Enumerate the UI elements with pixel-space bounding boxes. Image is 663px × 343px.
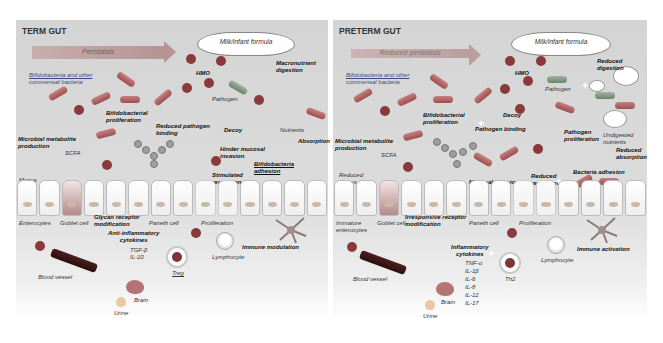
cytokine-item: TNF-α [465, 260, 482, 267]
proliferation-label: Proliferation [201, 220, 233, 227]
immune-modulation-label: Immune modulation [242, 244, 299, 251]
bifido-prolif-label: Bifidobacterialproliferation [423, 112, 465, 126]
peristalsis-label: Peristalsis [32, 48, 164, 55]
pathogen-icon [499, 145, 520, 161]
hmo-icon [500, 84, 510, 94]
brain-label: Brain [441, 299, 455, 306]
bacteria-label-2: commensal bacteria [346, 79, 400, 86]
hmo-icon [523, 76, 533, 86]
hmo-icon [507, 228, 517, 238]
urine-label: Urine [114, 310, 128, 317]
cytokine-item: IL-8 [465, 284, 475, 291]
pathogen-icon [554, 101, 575, 114]
cytokine-item: IL-12 [465, 292, 479, 299]
bacteria-icon [402, 130, 423, 142]
hmo-icon [216, 56, 226, 66]
reduced-digestion-label: Reduceddigestion [597, 58, 624, 72]
pathogen-icon [228, 79, 249, 95]
inflammation-star-icon: ✦ [487, 248, 495, 259]
paneth-label: Paneth cell [469, 220, 499, 227]
bacteria-icon [48, 85, 69, 101]
bacteria-icon [90, 91, 111, 106]
irresponsive-label: Irresponsive receptormodification [405, 214, 466, 228]
hmo-icon [347, 242, 357, 252]
hmo-icon [254, 95, 264, 105]
damage-star-icon: ✦ [581, 80, 589, 91]
bacteria-icon [95, 128, 116, 140]
bacteria-icon [353, 87, 374, 103]
blood-vessel-icon [359, 250, 407, 275]
lymphocyte-label: Lymphocyte [212, 254, 244, 261]
milk-cloud-label: Milk/infant formula [512, 38, 610, 45]
microbial-metabolite-label: Microbial metaboliteproduction [335, 138, 393, 152]
lymphocyte-icon [216, 232, 234, 250]
bacteria-label: Bifidobacteria and other [346, 72, 409, 79]
treg-icon [166, 246, 188, 268]
anti-inflammatory-label: Anti-inflammatorycytokines [108, 230, 159, 244]
macronutrient-label: Macronutrientdigestion [276, 60, 316, 74]
pathogen-label: Pathogen [212, 96, 238, 103]
hmo-icon [35, 241, 45, 251]
cytokine-item: IL-6 [465, 276, 475, 283]
bacteria-icon [305, 107, 326, 120]
cytokine-item: IL-10 [130, 254, 144, 261]
nutrients-label: Nutrients [280, 127, 304, 134]
bifido-prolif-label: Bifidobacterialproliferation [106, 110, 148, 124]
hmo-icon [191, 228, 201, 238]
peristalsis-label: Reduced peristalsis [351, 49, 469, 56]
scfa-label: SCFA [65, 150, 81, 157]
inflammatory-label: Inflammatorycytokines [451, 244, 489, 258]
brain-icon [126, 280, 144, 294]
hmo-icon [186, 54, 196, 64]
pathogen-prolif-label: Pathogenproliferation [564, 129, 599, 143]
th2-label: Th2 [505, 276, 515, 283]
cytokine-item: IL-1β [465, 268, 479, 275]
bacteria-icon [433, 96, 453, 103]
bacteria-icon [120, 96, 140, 103]
enterocytes-label: Enterocytes [19, 220, 51, 227]
damage-star-icon: ✦ [477, 118, 485, 129]
hmo-icon [536, 56, 546, 66]
urine-label: Urine [423, 313, 437, 320]
lymphocyte-icon [547, 236, 565, 254]
bacteria-label-2: commensal bacteria [29, 79, 83, 86]
glycan-label: Glycan receptormodification [94, 214, 140, 228]
dendritic-cell-icon [274, 216, 308, 244]
term-gut-panel: TERM GUT Peristalsis Milk/infant formula… [16, 20, 328, 320]
absorption-label: Absorption [298, 138, 330, 145]
hmo-icon [505, 56, 515, 66]
hmo-icon [102, 160, 112, 170]
decoy-label: Decoy [224, 127, 242, 134]
undigested-cloud-icon [589, 80, 605, 92]
milk-cloud: Milk/infant formula [511, 32, 611, 56]
immune-activation-label: Immune activation [577, 246, 630, 253]
reduced-absorption-label: Reducedabsorption [616, 147, 647, 161]
lymphocyte-label: Lymphocyte [541, 257, 573, 264]
milk-cloud: Milk/infant formula [197, 32, 295, 56]
paneth-label: Paneth cell [149, 220, 179, 227]
pathogen-icon [595, 92, 615, 99]
bacteria-label: Bifidobacteria and other [29, 72, 92, 79]
panel-title: TERM GUT [22, 26, 66, 36]
immature-enterocytes-label: Immatureenterocytes [336, 220, 367, 234]
hinder-mucosal-label: Hinder mucosalinvasion [220, 146, 265, 160]
treg-label: Treg [172, 270, 184, 277]
microbial-metabolite-label: Microbial metaboliteproduction [18, 136, 76, 150]
goblet-label: Goblet cell [377, 220, 405, 227]
blood-vessel-icon [50, 248, 98, 273]
blood-vessel-label: Blood vessel [38, 274, 72, 281]
reduced-peristalsis-arrow: Reduced peristalsis [351, 49, 469, 58]
bacteria-icon [153, 88, 173, 106]
milk-cloud-label: Milk/infant formula [198, 38, 294, 45]
bacteria-icon [429, 73, 449, 90]
bifido-adhesion-label: Bifidobacteriaadhesion [254, 161, 294, 175]
proliferation-label: Proliferation [519, 220, 551, 227]
bladder-icon [425, 300, 435, 310]
goblet-label: Goblet cell [60, 220, 88, 227]
bacteria-adhesion-label: Bacteria adhesion [573, 169, 625, 176]
dendritic-cell-icon [585, 216, 619, 244]
hmo-icon [380, 106, 390, 116]
hmo-icon [204, 78, 214, 88]
bacteria-icon [116, 71, 136, 88]
hmo-label: HMO [196, 70, 210, 77]
